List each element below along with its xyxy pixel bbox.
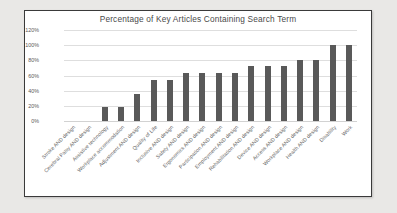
- x-label-slot: Work: [341, 122, 357, 202]
- bar-slot: [129, 30, 145, 121]
- bar-slot: [292, 30, 308, 121]
- y-axis-tick-label: 80%: [13, 57, 39, 63]
- bar: [118, 107, 124, 121]
- bar-slot: [276, 30, 292, 121]
- y-axis-tick-label: 60%: [13, 73, 39, 79]
- bar-slot: [113, 30, 129, 121]
- bar-slot: [194, 30, 210, 121]
- x-axis-tick-label: Work: [340, 124, 353, 137]
- y-axis-tick-label: 100%: [13, 42, 39, 48]
- bar-slot: [178, 30, 194, 121]
- y-axis-tick-label: 120%: [13, 27, 39, 33]
- y-axis-tick-label: 0%: [13, 118, 39, 124]
- bar-slot: [80, 30, 96, 121]
- bar: [232, 73, 238, 121]
- bar-slot: [97, 30, 113, 121]
- bar: [134, 94, 140, 121]
- y-axis-tick-label: 40%: [13, 88, 39, 94]
- bar: [167, 80, 173, 121]
- x-axis: Stroke AND designCerebral Palsy AND desi…: [64, 122, 357, 202]
- bar: [330, 45, 336, 121]
- x-label-slot: Disability: [325, 122, 341, 202]
- chart-container: Percentage of Key Articles Containing Se…: [24, 10, 372, 197]
- bar: [265, 66, 271, 121]
- bar-slot: [243, 30, 259, 121]
- bar: [151, 80, 157, 121]
- bar: [216, 73, 222, 121]
- bar-series: [64, 30, 357, 121]
- bar-slot: [227, 30, 243, 121]
- bar: [346, 45, 352, 121]
- bar-slot: [64, 30, 80, 121]
- bar-slot: [162, 30, 178, 121]
- bar-slot: [308, 30, 324, 121]
- bar: [281, 66, 287, 121]
- bar: [313, 60, 319, 121]
- bar: [297, 60, 303, 121]
- bar-slot: [341, 30, 357, 121]
- bar-slot: [145, 30, 161, 121]
- bar: [199, 73, 205, 121]
- bar-slot: [325, 30, 341, 121]
- bar-slot: [259, 30, 275, 121]
- chart-title: Percentage of Key Articles Containing Se…: [25, 14, 371, 24]
- bar: [102, 107, 108, 121]
- bar: [248, 66, 254, 121]
- y-axis-tick-label: 20%: [13, 103, 39, 109]
- bar: [183, 73, 189, 121]
- bar-slot: [211, 30, 227, 121]
- chart-screenshot: Percentage of Key Articles Containing Se…: [0, 0, 397, 213]
